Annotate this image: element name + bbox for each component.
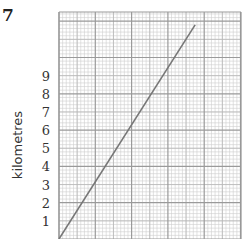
graph-paper-chart — [0, 0, 252, 239]
